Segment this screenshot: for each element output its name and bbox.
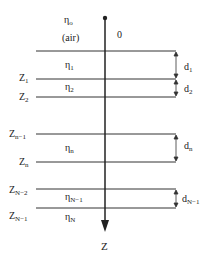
z1-label: Z1 — [19, 73, 29, 85]
air-label: (air) — [62, 33, 79, 43]
eta-2-label: η2 — [65, 82, 74, 94]
eta-1-label: η1 — [65, 60, 74, 72]
dn-label: dn — [184, 141, 193, 153]
zN-2-label: ZN−2 — [9, 185, 28, 197]
d1-label: d1 — [184, 62, 193, 74]
z2-label: Z2 — [19, 92, 29, 104]
zn-1-label: Zn−1 — [9, 129, 26, 141]
dN-1-label: dN−1 — [182, 194, 200, 206]
eta-N-1-label: ηN−1 — [65, 192, 83, 204]
zn-label: Zn — [19, 157, 29, 169]
diagram-canvas — [0, 0, 213, 266]
z-axis-arrow — [101, 16, 109, 232]
d2-label: d2 — [184, 84, 193, 96]
eta-n-label: ηn — [65, 143, 74, 155]
eta-N-label: ηN — [65, 212, 75, 224]
thickness-arrows — [174, 52, 178, 207]
origin-label: 0 — [117, 30, 122, 40]
zN-1-label: ZN−1 — [9, 211, 28, 223]
eta-0-label: ηo — [64, 15, 73, 27]
z-axis-label: Z — [101, 241, 108, 252]
